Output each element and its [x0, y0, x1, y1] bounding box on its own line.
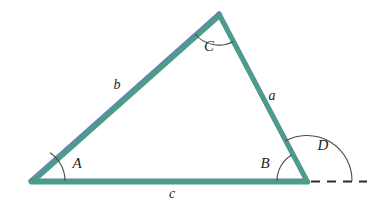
angle-label-C: C — [204, 38, 215, 54]
side-label-b: b — [114, 77, 121, 92]
angle-arc-B — [277, 155, 292, 181]
side-label-c: c — [169, 186, 176, 201]
side-b-edge — [33, 16, 221, 183]
angle-label-A: A — [71, 155, 82, 171]
side-label-a: a — [269, 88, 276, 103]
triangle-diagram-canvas: b a c A B C D — [0, 0, 385, 219]
geometry-figure: b a c A B C D — [0, 0, 385, 219]
angle-label-D: D — [317, 137, 329, 153]
angle-label-B: B — [260, 155, 269, 171]
